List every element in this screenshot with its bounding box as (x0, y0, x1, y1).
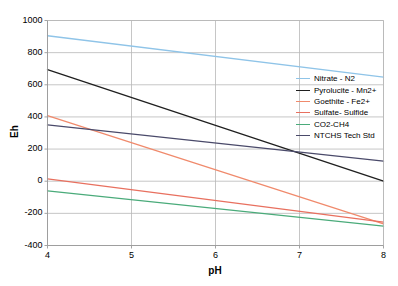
x-tick-label: 4 (38, 251, 58, 260)
legend-color-swatch (296, 112, 310, 113)
legend-item-label: Sulfate- Sulfide (314, 108, 368, 117)
legend-color-swatch (296, 78, 310, 79)
y-axis-title: Eh (9, 112, 20, 152)
legend-item[interactable]: Sulfate- Sulfide (296, 107, 396, 118)
x-axis-title: pH (47, 265, 383, 276)
chart-legend: Nitrate - N2Pyrolucite - Mn2+Goethite - … (296, 73, 396, 141)
plot-area (0, 0, 398, 286)
y-tick-label: 1000 (9, 16, 43, 25)
y-tick-label: 0 (9, 176, 43, 185)
y-tick-label: 800 (9, 48, 43, 57)
legend-item[interactable]: Pyrolucite - Mn2+ (296, 84, 396, 95)
eh-ph-line-chart: 10008006004002000-200-400 45678 Eh pH Ni… (0, 0, 398, 286)
legend-color-swatch (296, 124, 310, 125)
legend-item[interactable]: Goethite - Fe2+ (296, 96, 396, 107)
legend-color-swatch (296, 90, 310, 91)
x-tick-label: 5 (122, 251, 142, 260)
legend-item-label: CO2-CH4 (314, 120, 349, 129)
legend-item[interactable]: CO2-CH4 (296, 119, 396, 130)
legend-item-label: Pyrolucite - Mn2+ (314, 86, 376, 95)
y-tick-label: 600 (9, 80, 43, 89)
legend-color-swatch (296, 135, 310, 136)
legend-item-label: NTCHS Tech Std (314, 131, 375, 140)
x-tick-label: 8 (374, 251, 394, 260)
y-tick-label: -400 (9, 241, 43, 250)
legend-item-label: Nitrate - N2 (314, 74, 355, 83)
legend-color-swatch (296, 101, 310, 102)
x-tick-label: 6 (206, 251, 226, 260)
x-tick-label: 7 (290, 251, 310, 260)
legend-item[interactable]: Nitrate - N2 (296, 73, 396, 84)
legend-item-label: Goethite - Fe2+ (314, 97, 370, 106)
y-tick-label: -200 (9, 208, 43, 217)
legend-item[interactable]: NTCHS Tech Std (296, 130, 396, 141)
